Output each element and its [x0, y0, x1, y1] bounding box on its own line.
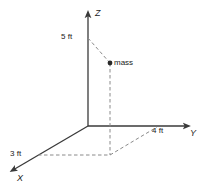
z-dimension-label: 5 ft [61, 33, 72, 41]
axes-drawing [0, 0, 202, 188]
x-axis-line [13, 126, 88, 170]
z-axis-label: Z [95, 9, 101, 18]
coordinate-axes-diagram: Z Y X 5 ft 4 ft 3 ft mass [0, 0, 202, 188]
x-dimension-label: 3 ft [10, 150, 21, 158]
mass-point-label: mass [114, 59, 133, 67]
y-projection-dashed-line [110, 127, 157, 155]
z-projection-dashed-line [88, 38, 110, 63]
y-axis-label: Y [190, 129, 196, 138]
mass-point-marker [108, 61, 113, 66]
y-dimension-label: 4 ft [152, 127, 163, 135]
x-axis-label: X [17, 174, 23, 183]
